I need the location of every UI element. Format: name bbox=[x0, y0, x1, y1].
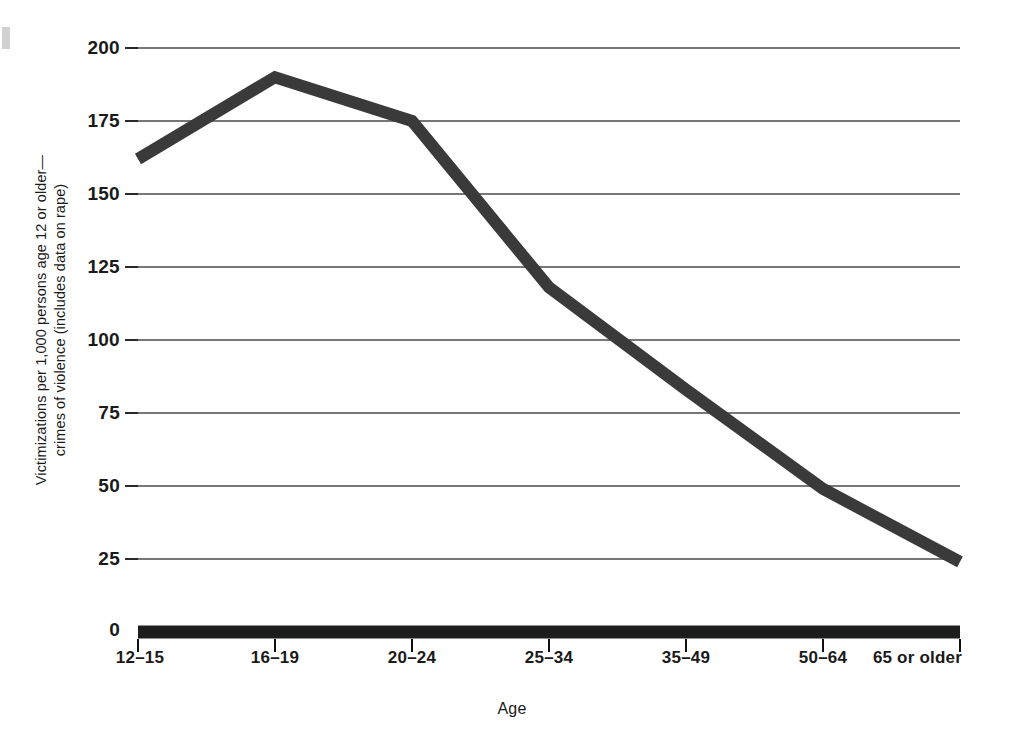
chart-plot-area bbox=[0, 0, 1024, 756]
data-series-line bbox=[138, 77, 960, 562]
x-axis-title: Age bbox=[0, 700, 1024, 718]
x-tick-label-12-15: 12–15 bbox=[116, 648, 164, 668]
gridlines bbox=[138, 48, 960, 559]
x-tick-label-25-34: 25–34 bbox=[525, 648, 573, 668]
x-tick-label-65-or-older: 65 or older bbox=[873, 648, 962, 668]
chart-figure: Victimizations per 1,000 persons age 12 … bbox=[0, 0, 1024, 756]
x-tick-label-20-24: 20–24 bbox=[388, 648, 436, 668]
x-tick-label-35-49: 35–49 bbox=[662, 648, 710, 668]
x-tick-label-16-19: 16–19 bbox=[251, 648, 299, 668]
y-axis-ticks bbox=[125, 48, 138, 559]
x-tick-label-50-64: 50–64 bbox=[799, 648, 847, 668]
